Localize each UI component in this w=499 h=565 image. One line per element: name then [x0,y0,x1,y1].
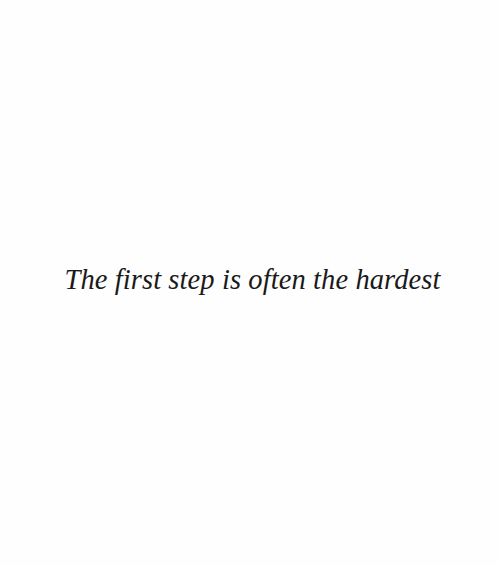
page: The first step is often the hardest [0,0,499,565]
quote-text: The first step is often the hardest [0,263,499,297]
